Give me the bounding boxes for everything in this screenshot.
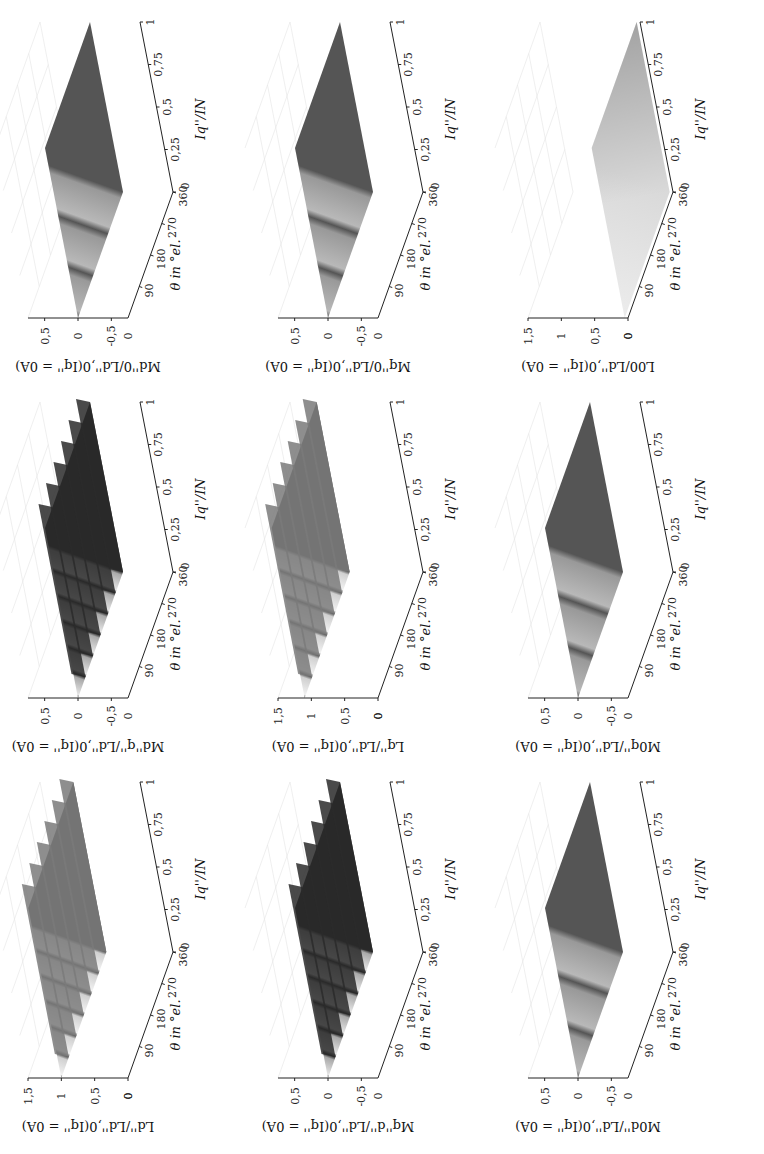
current-tick-label: 0 — [429, 943, 442, 950]
surface-plot-p33: 9018027036000,250,50,7510,50-0,50θ in °e… — [500, 760, 754, 1144]
z-tick-label: 0 — [72, 333, 85, 340]
theta-tick-label: 180 — [405, 629, 418, 650]
plot-canvas: 9018027036000,250,50,7510,50-0,50θ in °e… — [500, 760, 754, 1144]
current-tick-label: 0 — [429, 183, 442, 190]
current-tick-label: 0,75 — [652, 812, 665, 837]
current-tick-label: 0,25 — [669, 517, 682, 542]
current-tick-label: 0,5 — [661, 858, 674, 876]
z-axis-title: L00/Ld'',0(Iq'' = 0A) — [521, 359, 655, 374]
z-tick-label: 1,5 — [522, 327, 535, 345]
z-tick-label: 0,5 — [89, 1087, 102, 1105]
theta-axis-title: θ in °el. — [668, 619, 683, 670]
theta-tick-label: 90 — [643, 284, 656, 298]
z-tick-label: 0,5 — [339, 707, 352, 725]
z-tick-label: 0,5 — [289, 1087, 302, 1105]
current-tick-label: 1 — [394, 19, 407, 26]
current-tick-label: 0,25 — [419, 137, 432, 162]
theta-axis-title: θ in °el. — [418, 999, 433, 1050]
theta-axis-title: θ in °el. — [668, 239, 683, 290]
theta-tick-label: 180 — [655, 1009, 668, 1030]
z-axis-title: Md''0/Ld'',0(Iq'' = 0A) — [15, 359, 161, 374]
current-axis-title: Iq''/IN — [193, 478, 208, 521]
current-axis-title: Iq''/IN — [693, 858, 708, 901]
plot-canvas: 9018027036000,250,50,7510,50-0,50θ in °e… — [500, 380, 754, 764]
theta-tick-label: 270 — [666, 217, 679, 238]
z-tick-label: 1 — [555, 333, 568, 340]
svg-text:0: 0 — [622, 333, 635, 340]
theta-tick-label: 270 — [416, 597, 429, 618]
current-axis-title: Iq''/IN — [193, 98, 208, 141]
current-axis-title: Iq''/IN — [443, 98, 458, 141]
theta-tick-label: 90 — [643, 664, 656, 678]
surface-plot-p31: 9018027036000,250,50,7511,510,500θ in °e… — [0, 760, 254, 1144]
plot-canvas: 9018027036000,250,50,7510,50-0,50θ in °e… — [250, 0, 504, 384]
current-tick-label: 1 — [644, 779, 657, 786]
theta-tick-label: 180 — [155, 629, 168, 650]
theta-tick-label: 180 — [405, 249, 418, 270]
current-tick-label: 0,75 — [402, 812, 415, 837]
current-tick-label: 0 — [179, 563, 192, 570]
z-tick-label: 0 — [322, 1093, 335, 1100]
z-tick-label: 0,5 — [39, 707, 52, 725]
z-tick-label: 0 — [72, 713, 85, 720]
current-tick-label: 1 — [644, 399, 657, 406]
theta-axis-title: θ in °el. — [418, 619, 433, 670]
current-tick-label: 0,25 — [169, 517, 182, 542]
plot-canvas: 9018027036000,250,50,7510,50-0,50θ in °e… — [0, 380, 254, 764]
svg-text:0: 0 — [622, 1093, 635, 1100]
current-tick-label: 0,25 — [419, 517, 432, 542]
theta-tick-label: 270 — [666, 977, 679, 998]
theta-axis-title: θ in °el. — [668, 999, 683, 1050]
current-tick-label: 0,5 — [411, 478, 424, 496]
current-tick-label: 0 — [679, 183, 692, 190]
current-tick-label: 0 — [679, 563, 692, 570]
current-tick-label: 0,5 — [411, 98, 424, 116]
z-axis-title: M0d''/Ld'',0(Iq'' = 0A) — [515, 1119, 661, 1134]
z-tick-label: 0,5 — [289, 327, 302, 345]
current-tick-label: 0,25 — [669, 137, 682, 162]
surface-plot-p32: 9018027036000,250,50,7510,50-0,50θ in °e… — [250, 760, 504, 1144]
current-tick-label: 0,5 — [411, 858, 424, 876]
current-tick-label: 0,75 — [652, 432, 665, 457]
current-tick-label: 0,5 — [661, 478, 674, 496]
current-tick-label: 0,75 — [402, 52, 415, 77]
z-tick-label: 1,5 — [272, 707, 285, 725]
theta-tick-label: 90 — [643, 1044, 656, 1058]
z-axis-title: Lq''/Ld'',0(Iq'' = 0A) — [272, 739, 405, 754]
z-axis-title: Mq''0/Ld'',0(Iq'' = 0A) — [265, 359, 411, 374]
z-axis-title: M0q''/Ld'',0(Iq'' = 0A) — [515, 739, 661, 754]
surface-plot-p13: 9018027036000,250,50,7511,510,500θ in °e… — [500, 0, 754, 384]
z-tick-label: -0,5 — [355, 1085, 368, 1106]
current-axis-title: Iq''/IN — [193, 858, 208, 901]
z-axis-title: Md''q''/Ld'',0(Iq'' = 0A) — [12, 739, 165, 754]
z-axis-title: Mq''d''/Ld'',0(Iq'' = 0A) — [262, 1119, 415, 1134]
current-tick-label: 0,5 — [161, 478, 174, 496]
current-tick-label: 0 — [429, 563, 442, 570]
current-tick-label: 0,5 — [161, 858, 174, 876]
z-tick-label: 0 — [572, 713, 585, 720]
current-tick-label: 0,5 — [661, 98, 674, 116]
current-tick-label: 1 — [144, 19, 157, 26]
z-tick-label: -0,5 — [605, 705, 618, 726]
theta-tick-label: 270 — [166, 217, 179, 238]
svg-text:0: 0 — [622, 713, 635, 720]
plot-canvas: 9018027036000,250,50,7510,50-0,50θ in °e… — [250, 760, 504, 1144]
current-tick-label: 0,75 — [152, 432, 165, 457]
svg-text:0: 0 — [122, 713, 135, 720]
current-tick-label: 0,75 — [402, 432, 415, 457]
theta-axis-title: θ in °el. — [168, 999, 183, 1050]
current-tick-label: 0,75 — [152, 812, 165, 837]
current-tick-label: 1 — [394, 779, 407, 786]
surface-plot-p21: 9018027036000,250,50,7510,50-0,50θ in °e… — [0, 380, 254, 764]
theta-tick-label: 90 — [393, 284, 406, 298]
current-axis-title: Iq''/IN — [443, 478, 458, 521]
surface-plot-p22: 9018027036000,250,50,7511,510,500θ in °e… — [250, 380, 504, 764]
current-tick-label: 0 — [179, 943, 192, 950]
z-tick-label: -0,5 — [355, 325, 368, 346]
surface-plot-p11: 9018027036000,250,50,7510,50-0,50θ in °e… — [0, 0, 254, 384]
current-tick-label: 0 — [679, 943, 692, 950]
surface-plot-p23: 9018027036000,250,50,7510,50-0,50θ in °e… — [500, 380, 754, 764]
theta-tick-label: 180 — [405, 1009, 418, 1030]
current-tick-label: 1 — [144, 399, 157, 406]
theta-tick-label: 180 — [655, 249, 668, 270]
